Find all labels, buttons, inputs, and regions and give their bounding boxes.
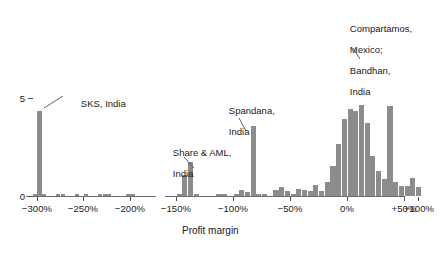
annotation-sks-label: SKS, India	[81, 98, 126, 109]
annotation-spandana-line2: India	[229, 126, 250, 137]
annotation-compartamos-bandhan: Compartamos, Mexico; Bandhan, India	[334, 13, 412, 108]
annotations-layer: SKS, India Share & AML, India Spandana, …	[0, 0, 447, 257]
annotation-spandana-line1: Spandana,	[229, 105, 275, 116]
annotation-compartamos-line2: Mexico;	[350, 44, 383, 55]
annotation-share-aml-line2: India	[173, 168, 194, 179]
annotation-share-aml-line1: Share & AML,	[173, 147, 232, 158]
histogram-chart: 0 5 −300% −250% −200% −150% −100% −50% 0…	[0, 0, 447, 257]
annotation-compartamos-line1: Compartamos,	[350, 23, 412, 34]
annotation-sks: SKS, India	[65, 88, 126, 120]
annotation-compartamos-line4: India	[350, 86, 371, 97]
annotation-spandana: Spandana, India	[213, 95, 275, 148]
annotation-compartamos-line3: Bandhan,	[350, 65, 391, 76]
